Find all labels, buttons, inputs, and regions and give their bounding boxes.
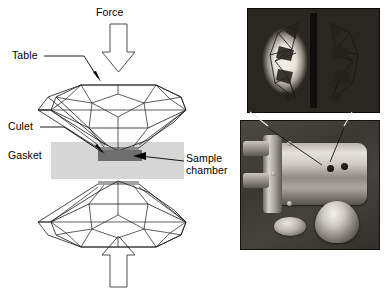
force-arrow-bottom: [102, 236, 135, 287]
lower-diamond-anvil: [38, 181, 186, 247]
label-force: Force: [96, 7, 123, 19]
force-arrow-top: [102, 24, 135, 72]
schematic-overlay: [0, 0, 386, 291]
figure-canvas: Force Table Culet Gasket Sample chamber: [0, 0, 386, 291]
label-culet: Culet: [8, 121, 33, 133]
label-gasket: Gasket: [8, 150, 42, 162]
label-table: Table: [12, 50, 38, 62]
label-sample-chamber-line1: Sample: [186, 153, 222, 165]
photo-connector-lines: [250, 112, 352, 165]
upper-diamond-anvil: [38, 85, 186, 151]
leader-line-table: [44, 56, 101, 82]
label-sample-chamber-line2: chamber: [186, 165, 228, 177]
